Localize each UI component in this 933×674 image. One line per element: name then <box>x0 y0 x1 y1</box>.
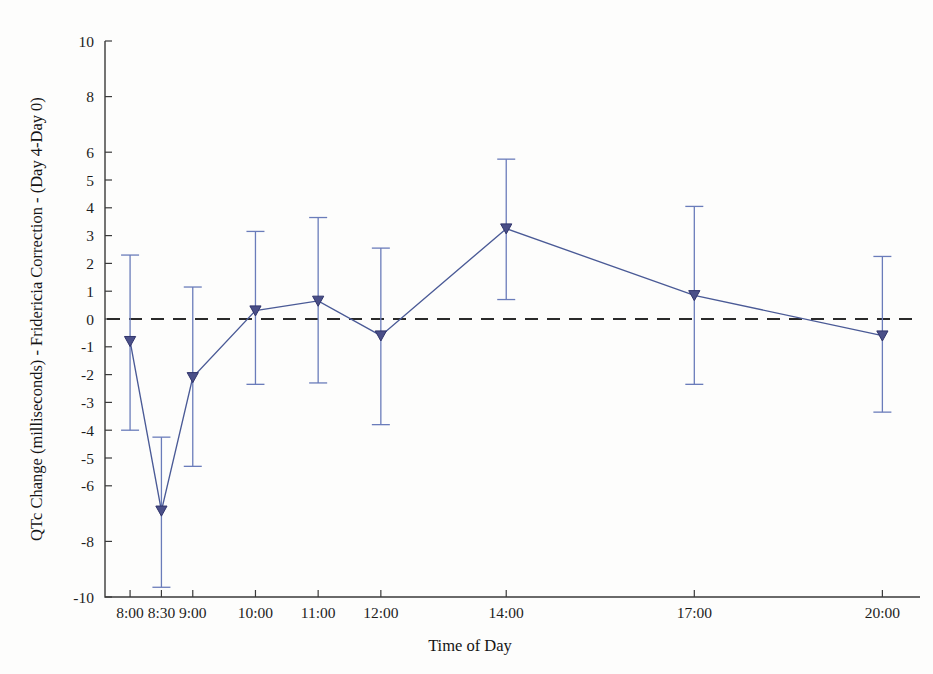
x-axis-ticks <box>130 590 882 597</box>
x-axis-tick-labels: 8:008:309:0010:0011:0012:0014:0017:0020:… <box>116 604 900 621</box>
y-tick-label: 3 <box>86 227 94 244</box>
y-tick-label: 4 <box>86 199 94 216</box>
data-point-marker <box>187 373 198 383</box>
chart-figure: 1086543210-1-2-3-4-5-6-8-10 8:008:309:00… <box>0 0 933 674</box>
error-bars <box>121 159 891 587</box>
y-tick-label: 8 <box>86 88 94 105</box>
x-tick-label: 10:00 <box>238 604 274 621</box>
y-tick-label: -3 <box>81 394 94 411</box>
x-tick-label: 9:00 <box>179 604 207 621</box>
data-point-marker <box>124 336 135 346</box>
y-tick-label: 6 <box>86 144 94 161</box>
x-tick-label: 17:00 <box>677 604 713 621</box>
chart-plot-area: 1086543210-1-2-3-4-5-6-8-10 8:008:309:00… <box>0 0 933 674</box>
x-tick-label: 14:00 <box>489 604 525 621</box>
y-tick-label: -8 <box>81 533 94 550</box>
data-point-marker <box>375 331 386 341</box>
x-tick-label: 8:30 <box>148 604 176 621</box>
y-tick-label: -4 <box>81 422 94 439</box>
data-point-marker <box>877 331 888 341</box>
y-tick-label: -5 <box>81 450 94 467</box>
y-tick-label: -2 <box>81 366 94 383</box>
y-tick-label: 1 <box>86 283 94 300</box>
y-tick-label: 5 <box>86 172 94 189</box>
y-tick-label: -1 <box>81 338 94 355</box>
y-tick-label: -6 <box>81 477 94 494</box>
y-tick-label: 0 <box>86 311 94 328</box>
x-tick-label: 11:00 <box>301 604 336 621</box>
x-axis-title: Time of Day <box>428 636 512 655</box>
y-axis-title: QTc Change (milliseconds) - Fridericia C… <box>27 97 46 541</box>
y-tick-label: 2 <box>86 255 94 272</box>
x-tick-label: 8:00 <box>116 604 144 621</box>
y-tick-label: 10 <box>79 33 95 50</box>
y-axis-tick-labels: 1086543210-1-2-3-4-5-6-8-10 <box>73 33 94 606</box>
x-tick-label: 12:00 <box>363 604 399 621</box>
data-point-marker <box>156 506 167 516</box>
x-tick-label: 20:00 <box>865 604 901 621</box>
y-tick-label: -10 <box>73 589 94 606</box>
